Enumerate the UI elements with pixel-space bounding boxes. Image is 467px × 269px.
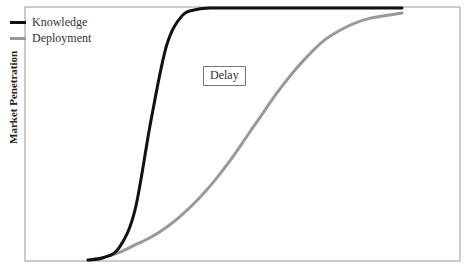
legend-item-deployment: Deployment [10,30,91,46]
delay-annotation: Delay [203,66,246,86]
legend-item-knowledge: Knowledge [10,14,91,30]
legend-label-knowledge: Knowledge [32,15,87,30]
knowledge-swatch-icon [10,21,26,24]
legend: Knowledge Deployment [10,14,91,46]
deployment-swatch-icon [10,37,26,40]
deployment-curve [88,13,402,260]
knowledge-curve [88,8,402,260]
y-axis-label: Market Penetration [7,124,19,144]
legend-label-deployment: Deployment [32,31,91,46]
